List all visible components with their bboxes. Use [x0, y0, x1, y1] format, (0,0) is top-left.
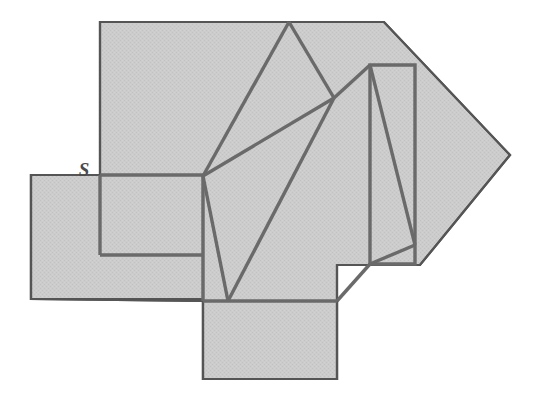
- filled-regions: [31, 22, 510, 379]
- figure-container: S: [0, 0, 540, 402]
- bottom-shaded-rectangle: [203, 301, 337, 379]
- left-shaded-rectangle: [31, 175, 203, 299]
- label-s: S: [79, 159, 90, 180]
- label-group: S: [79, 159, 90, 180]
- inner-line-rect-corner-to-bottom: [337, 264, 370, 301]
- geometry-diagram: S: [0, 0, 540, 402]
